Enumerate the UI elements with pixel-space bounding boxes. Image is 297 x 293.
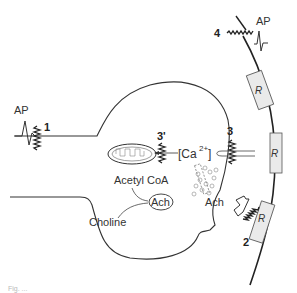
site-3-prime-label: 3' [157,130,166,142]
arrowhead-icon [154,151,159,155]
ach-inner-label: Ach [151,196,170,208]
block-site-1 [34,126,40,150]
mitochondrion [108,144,156,164]
membrane-tick [236,16,246,30]
receptor-middle: R [270,133,282,173]
figure-caption: Fig. ... [8,285,28,293]
svg-text:[Ca: [Ca [178,147,197,161]
receptor-top: R [246,70,273,109]
block-site-3 [229,140,235,164]
ap-waveform-right [254,31,268,51]
svg-text:R: R [255,85,262,96]
block-site-4 [227,31,253,34]
svg-text:R: R [271,148,278,159]
site-3-label: 3 [227,125,233,137]
svg-text:R: R [258,213,265,224]
ap-waveform-left [15,121,35,145]
release-open-arrow [234,196,249,216]
site-2-label: 2 [243,236,249,248]
site-1-label: 1 [44,121,50,133]
calcium-label: [Ca 2+ ] [178,144,211,161]
nerve-terminal-diagram: R R R AP 1 3' [Ca 2+ ] 3 Ach Acety [0,0,297,293]
receptor-lower: R [249,201,275,243]
acetyl-coa-arrow [132,188,148,201]
svg-text:]: ] [208,147,211,161]
site-4-label: 4 [214,27,221,39]
ap-label-right: AP [256,15,271,27]
choline-label: Choline [89,216,126,228]
ach-release-label: Ach [205,196,224,208]
acetyl-coa-label: Acetyl CoA [114,174,169,186]
ap-label-left: AP [14,104,29,116]
